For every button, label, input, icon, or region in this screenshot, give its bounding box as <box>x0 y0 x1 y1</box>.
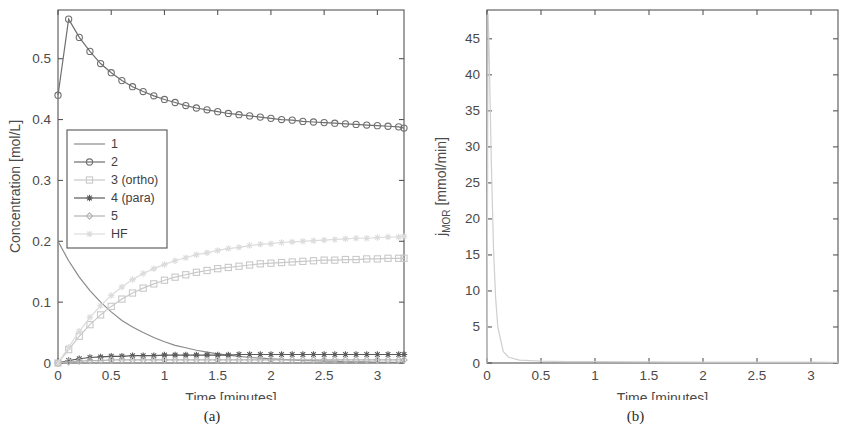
data-point-marker <box>204 250 211 257</box>
y-tick-label: 0 <box>43 356 51 371</box>
svg-text:Concentration [mol/L]: Concentration [mol/L] <box>7 120 23 253</box>
data-point-marker <box>332 236 339 243</box>
data-point-marker <box>342 236 349 243</box>
legend-label: 3 (ortho) <box>111 173 158 187</box>
y-axis-ticks: 051015202530354045 <box>465 31 838 370</box>
y-tick-label: 40 <box>465 67 480 82</box>
chart-panel-a: 00.511.522.5300.10.20.30.40.5Time [minut… <box>0 0 424 444</box>
y-tick-label: 15 <box>465 247 480 262</box>
data-point-marker <box>65 344 72 351</box>
x-tick-label: 2.5 <box>315 368 334 383</box>
data-point-marker <box>268 240 275 247</box>
data-point-marker <box>289 239 296 246</box>
y-tick-label: 10 <box>465 283 480 298</box>
x-tick-label: 1 <box>161 368 169 383</box>
y-tick-label: 0.5 <box>32 51 51 66</box>
x-tick-label: 3 <box>807 368 815 383</box>
chart-b-svg: 00.511.522.53051015202530354045Time [min… <box>424 0 847 400</box>
data-point-marker <box>310 237 317 244</box>
data-series-group <box>487 14 838 363</box>
data-point-marker <box>151 265 158 272</box>
x-tick-label: 1.5 <box>640 368 659 383</box>
series-line <box>487 14 838 363</box>
x-tick-label: 1 <box>591 368 599 383</box>
data-point-marker <box>86 195 93 202</box>
y-tick-label: 0.3 <box>32 173 51 188</box>
data-point-marker <box>119 284 126 291</box>
x-axis-title: Time [minutes] <box>185 390 276 400</box>
x-axis-title: Time [minutes] <box>617 390 708 400</box>
y-tick-label: 0.1 <box>32 295 51 310</box>
chart-a-svg: 00.511.522.5300.10.20.30.40.5Time [minut… <box>0 0 424 400</box>
data-point-marker <box>363 235 370 242</box>
data-point-marker <box>246 242 253 249</box>
y-tick-label: 30 <box>465 139 480 154</box>
x-tick-label: 3 <box>374 368 382 383</box>
y-tick-label: 25 <box>465 175 480 190</box>
x-tick-label: 0 <box>483 368 491 383</box>
y-axis-title: Concentration [mol/L] <box>7 120 23 253</box>
data-point-marker <box>129 352 136 359</box>
data-point-marker <box>385 234 392 241</box>
data-point-marker <box>395 234 402 241</box>
y-tick-label: 0.4 <box>32 112 51 127</box>
x-tick-label: 2.5 <box>748 368 767 383</box>
data-point-marker <box>214 247 221 254</box>
data-point-marker <box>193 251 200 258</box>
subfigure-caption-b: (b) <box>424 408 847 425</box>
y-tick-label: 0 <box>472 356 480 371</box>
legend-label: HF <box>111 227 128 241</box>
data-point-marker <box>353 235 360 242</box>
x-tick-label: 2 <box>699 368 707 383</box>
data-point-marker <box>129 276 136 283</box>
x-tick-label: 0.5 <box>532 368 551 383</box>
data-point-marker <box>55 360 62 367</box>
data-point-marker <box>300 238 307 245</box>
data-point-marker <box>172 257 179 264</box>
data-point-marker <box>374 234 381 241</box>
data-point-marker <box>140 352 147 359</box>
x-tick-label: 0 <box>54 368 62 383</box>
data-series <box>55 233 408 366</box>
y-axis-title: jMOR [mmol/min] <box>433 137 452 237</box>
series-line <box>58 236 404 363</box>
data-point-marker <box>321 237 328 244</box>
figure-container: 00.511.522.5300.10.20.30.40.5Time [minut… <box>0 0 847 444</box>
chart-legend: 123 (ortho)4 (para)5HF <box>67 130 167 248</box>
data-point-marker <box>236 244 243 251</box>
y-tick-label: 0.2 <box>32 234 51 249</box>
data-point-marker <box>108 292 115 299</box>
y-tick-label: 20 <box>465 211 480 226</box>
data-point-marker <box>182 254 189 261</box>
y-tick-label: 45 <box>465 31 480 46</box>
data-point-marker <box>257 241 264 248</box>
x-axis-ticks: 00.511.522.53 <box>483 10 815 383</box>
x-tick-label: 2 <box>267 368 275 383</box>
svg-text:jMOR [mmol/min]: jMOR [mmol/min] <box>433 137 452 237</box>
data-series <box>55 16 407 131</box>
legend-label: 4 (para) <box>111 191 155 205</box>
x-tick-label: 1.5 <box>208 368 227 383</box>
axes-frame <box>487 10 838 363</box>
data-point-marker <box>225 245 232 252</box>
subfigure-caption-a: (a) <box>0 408 424 425</box>
legend-label: 2 <box>111 155 118 169</box>
data-point-marker <box>161 261 168 268</box>
data-series <box>55 357 407 366</box>
data-point-marker <box>76 328 83 335</box>
data-point-marker <box>401 233 408 240</box>
y-tick-label: 5 <box>472 319 480 334</box>
data-series <box>55 255 407 366</box>
data-series <box>487 14 838 363</box>
x-tick-label: 0.5 <box>102 368 121 383</box>
legend-label: 5 <box>111 209 118 223</box>
data-point-marker <box>278 239 285 246</box>
data-point-marker <box>87 314 94 321</box>
data-point-marker <box>140 270 147 277</box>
y-tick-label: 35 <box>465 103 480 118</box>
chart-panel-b: 00.511.522.53051015202530354045Time [min… <box>424 0 847 444</box>
data-point-marker <box>97 303 104 310</box>
data-point-marker <box>151 352 158 359</box>
legend-label: 1 <box>111 137 118 151</box>
data-point-marker <box>86 231 93 238</box>
